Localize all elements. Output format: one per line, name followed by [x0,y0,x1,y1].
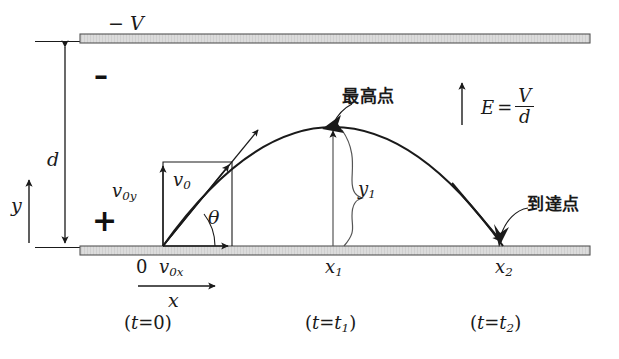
positive-charge-sign: + [92,206,117,236]
v0x-symbol: v [159,256,169,277]
physics-diagram: − V – + d y x 0 v0x v0y v0 θ E=Vd 最高点 到達… [0,0,619,359]
x-axis-label: x [168,291,179,310]
x1-symbol: x [325,256,335,277]
v0-subscript: 0 [183,178,191,192]
paren-close-1: ) [349,312,356,333]
v0x-subscript: 0x [169,265,183,279]
negative-charge-sign: – [94,62,108,90]
landing-annotation: 到達点 [527,196,580,213]
t-value-1: t [334,312,341,333]
x2-marker-label: x2 [495,258,513,279]
apex-height-symbol: y [358,178,368,199]
time-label-apex: (t=t1) [305,314,356,335]
t-equals-1: = [319,312,334,333]
electric-field-label: E=Vd [481,87,534,126]
apex-height-subscript: 1 [368,187,376,201]
y-axis-label: y [11,196,22,215]
diagram-canvas [0,0,619,359]
theta-label: θ [208,208,219,227]
paren-open-1: ( [305,312,312,333]
field-symbol: E [481,97,494,118]
apex-annotation: 最高点 [342,88,395,105]
plate-separation-label: d [47,150,59,169]
t-value-0: 0 [153,312,164,333]
paren-open-0: ( [124,312,131,333]
v0-label: v0 [173,171,191,192]
bottom-plate [80,246,590,255]
v0y-label: v0y [112,182,136,203]
t-value-2: t [499,312,506,333]
field-denominator: d [515,107,534,126]
apex-label-arrowhead [322,115,344,133]
paren-close-2: ) [514,312,521,333]
field-numerator: V [515,87,534,107]
x2-subscript: 2 [505,265,513,279]
paren-open-2: ( [470,312,477,333]
origin-label: 0 [136,258,147,276]
v0x-label: v0x [159,258,183,279]
apex-height-label: y1 [358,180,376,201]
paren-close-0: ) [165,312,172,333]
field-equals: = [494,97,515,118]
top-plate-voltage-label: − V [108,14,144,33]
x1-marker-label: x1 [325,258,343,279]
field-fraction: Vd [515,87,534,126]
landing-direction-arrow [452,183,501,241]
t-equals-2: = [484,312,499,333]
v0y-symbol: v [112,180,122,201]
time-label-origin: (t=0) [124,314,172,332]
v0-symbol: v [173,169,183,190]
t-equals-0: = [138,312,153,333]
top-plate [80,34,590,43]
v0y-subscript: 0y [122,189,136,203]
x1-subscript: 1 [335,265,343,279]
time-label-landing: (t=t2) [470,314,521,335]
x2-symbol: x [495,256,505,277]
